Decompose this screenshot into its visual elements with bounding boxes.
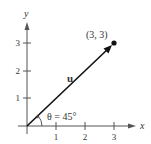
x-tick-label: 1 xyxy=(54,132,59,142)
point-dot-icon xyxy=(111,40,116,45)
x-axis-arrow-icon xyxy=(128,124,136,129)
point-label: (3, 3) xyxy=(86,29,108,41)
y-ticks: 1 2 3 xyxy=(16,38,32,103)
y-axis-arrow-icon xyxy=(25,22,30,30)
vector-diagram: x y 1 2 3 1 2 3 u (3, 3) θ = 45° xyxy=(0,0,151,144)
x-tick-label: 2 xyxy=(83,132,88,142)
terminal-point: (3, 3) xyxy=(86,29,117,46)
x-axis-label: x xyxy=(139,120,145,131)
y-tick-label: 2 xyxy=(16,66,21,76)
x-tick-label: 3 xyxy=(112,132,117,142)
vector-label: u xyxy=(67,72,73,84)
angle-label: θ = 45° xyxy=(47,111,76,122)
x-ticks: 1 2 3 xyxy=(54,122,117,142)
y-tick-label: 3 xyxy=(16,38,21,48)
y-tick-label: 1 xyxy=(16,93,21,103)
x-axis: x xyxy=(18,120,145,131)
y-axis-label: y xyxy=(23,8,29,19)
